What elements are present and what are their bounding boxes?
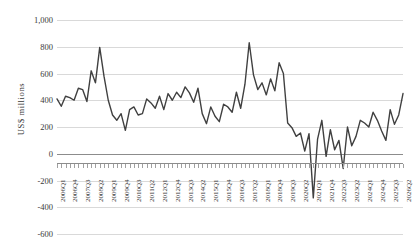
x-axis-tick-mark: [369, 164, 370, 168]
x-axis-tick-label: 2024Q1: [367, 179, 374, 202]
y-axis-tick: 200: [7, 123, 53, 132]
x-axis-tick-mark: [61, 164, 62, 168]
y-axis-tick-labels: 1,0008006004002000-200-400-600: [0, 0, 53, 245]
x-axis-tick-label: 2014Q2: [200, 179, 207, 202]
x-axis-tick-mark: [271, 164, 272, 168]
x-axis-tick-label: 2009Q4: [124, 179, 131, 202]
x-axis-tick-label: 2012Q4: [175, 179, 182, 202]
x-axis-tick-mark: [66, 164, 67, 168]
y-axis-tick: 600: [7, 70, 53, 79]
x-axis-tick-mark: [399, 164, 400, 168]
x-axis-tick-mark: [343, 164, 344, 168]
y-axis-tick: -600: [7, 230, 53, 239]
x-axis-tick-mark: [283, 164, 284, 168]
x-axis-tick-mark: [160, 164, 161, 168]
x-axis-tick-mark: [326, 164, 327, 168]
x-axis-tick-mark: [382, 164, 383, 168]
x-axis-tick-mark: [296, 164, 297, 168]
x-axis-tick-label: 2019Q3: [290, 179, 297, 202]
x-axis-tick-mark: [245, 164, 246, 168]
x-axis-tick-mark: [373, 164, 374, 168]
x-axis-tick-mark: [288, 164, 289, 168]
x-axis-tick-mark: [360, 164, 361, 168]
x-axis-tick-mark: [322, 164, 323, 168]
x-axis-tick-mark: [202, 164, 203, 168]
x-axis-tick-mark: [215, 164, 216, 168]
x-axis-tick-mark: [300, 164, 301, 168]
x-axis-tick-mark: [207, 164, 208, 168]
x-axis-tick-mark: [318, 164, 319, 168]
x-axis-tick-mark: [219, 164, 220, 168]
x-axis-tick-mark: [347, 164, 348, 168]
x-axis-tick-mark: [113, 164, 114, 168]
x-axis-tick-mark: [313, 164, 314, 168]
x-axis-tick-mark: [249, 164, 250, 168]
x-axis-tick-label: 2009Q1: [111, 179, 118, 202]
x-axis-tick-label: 2024Q4: [380, 179, 387, 202]
x-axis-tick-label: 2022Q3: [341, 179, 348, 202]
x-axis-tick-mark: [241, 164, 242, 168]
x-axis-tick-mark: [155, 164, 156, 168]
x-axis-tick-mark: [339, 164, 340, 168]
x-axis-tick-label: 2015Q4: [226, 179, 233, 202]
x-axis-tick-mark: [253, 164, 254, 168]
x-axis-tick-mark: [177, 164, 178, 168]
x-axis-tick-mark: [258, 164, 259, 168]
y-axis-tick: 0: [7, 150, 53, 159]
x-axis-tick-labels: 2006Q12006Q42007Q32008Q22009Q12009Q42010…: [57, 164, 403, 224]
x-axis-tick-mark: [232, 164, 233, 168]
x-axis-tick-label: 2013Q3: [188, 179, 195, 202]
x-axis-tick-mark: [309, 164, 310, 168]
x-axis-tick-label: 2006Q4: [72, 179, 79, 202]
gridline: [57, 234, 403, 235]
x-axis-tick-label: 2008Q2: [98, 179, 105, 202]
x-axis-tick-mark: [185, 164, 186, 168]
x-axis-tick-mark: [172, 164, 173, 168]
x-axis-tick-mark: [194, 164, 195, 168]
x-axis-tick-label: 2007Q3: [85, 179, 92, 202]
x-axis-tick-label: 2017Q2: [252, 179, 259, 202]
x-axis-tick-label: 2018Q4: [277, 179, 284, 202]
x-axis-tick-mark: [386, 164, 387, 168]
x-axis-tick-label: 2011Q2: [149, 180, 156, 202]
x-axis-tick-mark: [121, 164, 122, 168]
x-axis-tick-mark: [266, 164, 267, 168]
x-axis-tick-mark: [228, 164, 229, 168]
x-axis-tick-mark: [130, 164, 131, 168]
x-axis-tick-mark: [365, 164, 366, 168]
x-axis-tick-label: 2016Q3: [239, 179, 246, 202]
x-axis-tick-mark: [181, 164, 182, 168]
x-axis-tick-mark: [91, 164, 92, 168]
x-axis-tick-mark: [211, 164, 212, 168]
x-axis-tick-label: 2026Q2: [406, 179, 413, 202]
y-axis-tick: -200: [7, 177, 53, 186]
x-axis-tick-mark: [83, 164, 84, 168]
x-axis-tick-mark: [125, 164, 126, 168]
x-axis-tick-label: 2018Q1: [265, 179, 272, 202]
x-axis-tick-mark: [292, 164, 293, 168]
x-axis-tick-mark: [142, 164, 143, 168]
x-axis-tick-mark: [236, 164, 237, 168]
x-axis-tick-mark: [134, 164, 135, 168]
x-axis-tick-mark: [100, 164, 101, 168]
x-axis-tick-mark: [151, 164, 152, 168]
x-axis-tick-mark: [390, 164, 391, 168]
x-axis-tick-mark: [78, 164, 79, 168]
x-axis-tick-mark: [394, 164, 395, 168]
x-axis-tick-mark: [147, 164, 148, 168]
x-axis-tick-mark: [70, 164, 71, 168]
x-axis-tick-mark: [377, 164, 378, 168]
x-axis-tick-mark: [189, 164, 190, 168]
x-axis-tick-mark: [275, 164, 276, 168]
x-axis-tick-mark: [168, 164, 169, 168]
x-axis-tick-mark: [305, 164, 306, 168]
x-axis-tick-mark: [403, 164, 404, 168]
x-axis-tick-label: 2023Q2: [354, 179, 361, 202]
x-axis-tick-label: 2021Q4: [329, 179, 336, 202]
x-axis-tick-mark: [95, 164, 96, 168]
x-axis-tick-label: 2015Q1: [213, 179, 220, 202]
x-axis-tick-mark: [57, 164, 58, 168]
x-axis-tick-mark: [87, 164, 88, 168]
x-axis-tick-mark: [104, 164, 105, 168]
